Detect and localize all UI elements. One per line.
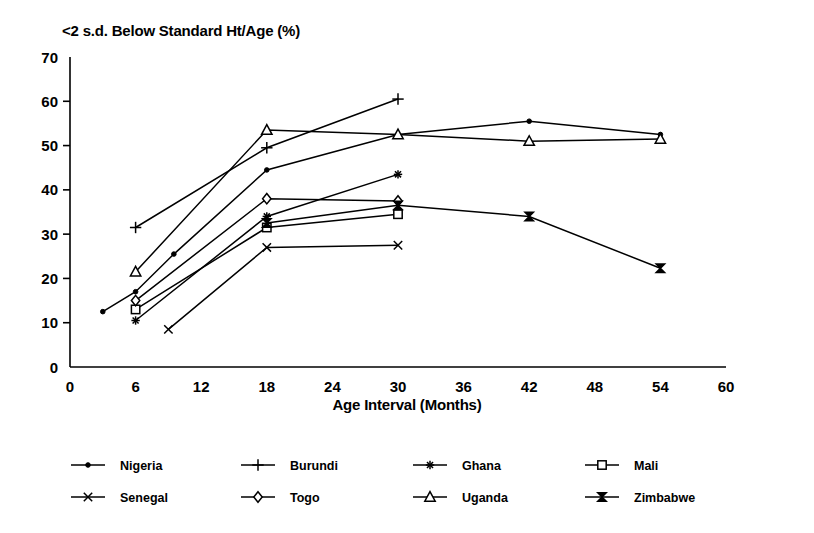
x-tick-label: 0 [66,378,74,395]
chart-figure: <2 s.d. Below Standard Ht/Age (%) 010203… [0,0,814,533]
data-point-marker-plus [252,459,263,470]
data-point-marker-plus [130,222,141,233]
x-axis-label: Age Interval (Months) [0,396,814,413]
data-point-marker-plus [392,93,403,104]
data-point-marker-cross [164,325,172,333]
x-tick-label: 48 [586,378,603,395]
data-point-marker-plus [261,142,272,153]
data-point-marker-diamond [263,194,271,204]
series-burundi [130,93,404,233]
x-tick-label: 54 [652,378,669,395]
legend-item-mali[interactable]: Mali [585,459,658,473]
legend-item-togo[interactable]: Togo [241,491,320,505]
series-zimbabwe [263,201,665,272]
y-tick-label: 60 [41,93,58,110]
series-group [101,93,666,333]
legend-item-senegal[interactable]: Senegal [71,491,168,505]
data-point-marker-diamond [254,492,262,502]
data-point-marker-asterisk [394,170,402,178]
legend-item-ghana[interactable]: Ghana [413,459,502,473]
x-tick-label: 18 [258,378,275,395]
legend-label: Senegal [120,491,168,505]
legend-item-burundi[interactable]: Burundi [241,459,338,473]
data-point-marker-square [394,210,402,218]
y-tick-label: 70 [41,49,58,66]
data-point-marker-dot [527,119,532,124]
data-point-marker-dot [86,463,91,468]
y-tick-label: 50 [41,137,58,154]
data-point-marker-bowtie [656,264,664,272]
data-point-marker-dot [133,289,138,294]
series-senegal [164,241,402,334]
legend-group: NigeriaBurundiGhanaMaliSenegalTogoUganda… [71,459,695,505]
legend-item-zimbabwe[interactable]: Zimbabwe [585,491,695,505]
x-tick-label: 24 [324,378,341,395]
x-tick-label: 42 [521,378,538,395]
legend-item-nigeria[interactable]: Nigeria [71,459,163,473]
data-point-marker-dot [101,309,106,314]
data-point-marker-dot [172,252,177,257]
legend-label: Ghana [462,459,502,473]
data-point-marker-diamond [131,295,139,305]
legend-item-uganda[interactable]: Uganda [413,491,509,505]
data-point-marker-square [598,461,606,469]
data-point-marker-asterisk [131,316,139,324]
x-tick-label: 30 [390,378,407,395]
chart-plot-area: 01020304050607006121824303642485460 Nige… [0,0,814,533]
data-point-marker-dot [265,168,270,173]
data-point-marker-asterisk [426,461,434,469]
y-tick-label: 30 [41,226,58,243]
legend-label: Mali [634,459,658,473]
x-tick-label: 12 [193,378,210,395]
legend-label: Uganda [462,491,509,505]
legend-label: Zimbabwe [634,491,695,505]
y-tick-label: 0 [50,359,58,376]
y-tick-label: 40 [41,181,58,198]
legend-label: Togo [290,491,320,505]
legend-label: Nigeria [120,459,163,473]
y-tick-label: 20 [41,270,58,287]
y-tick-label: 10 [41,314,58,331]
legend-label: Burundi [290,459,338,473]
x-tick-label: 36 [455,378,472,395]
x-tick-label: 6 [131,378,139,395]
x-tick-label: 60 [718,378,735,395]
